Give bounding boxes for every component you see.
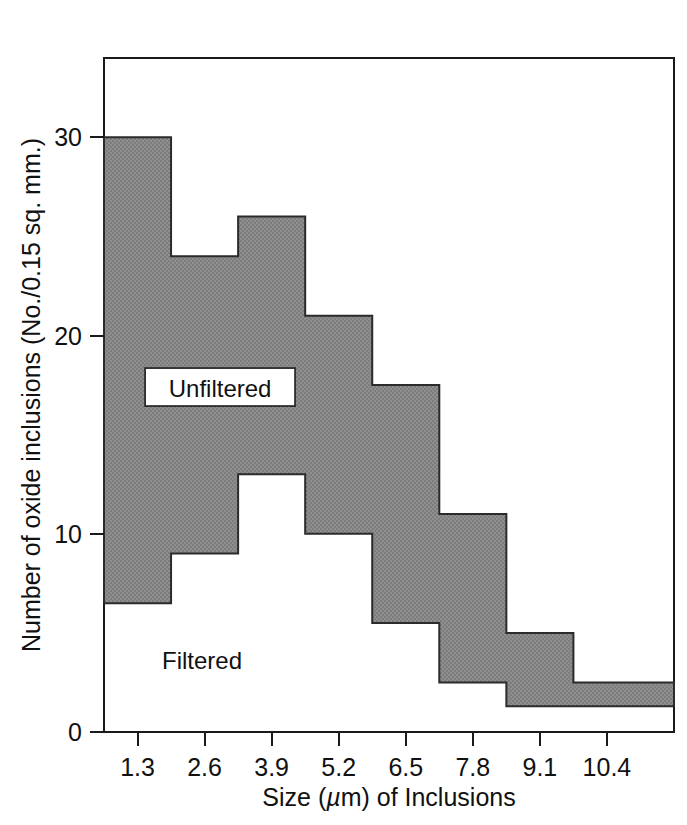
y-axis: 0102030 — [54, 123, 104, 746]
y-tick-label: 10 — [54, 520, 82, 548]
chart-figure: 0102030 1.32.63.95.26.57.89.110.4 Unfilt… — [0, 0, 687, 825]
x-axis-title-after: m) of Inclusions — [341, 783, 516, 811]
y-tick-label: 20 — [54, 322, 82, 350]
y-axis-title: Number of oxide inclusions (No./0.15 sq.… — [17, 138, 45, 652]
x-tick-label: 9.1 — [522, 753, 557, 781]
x-tick-label: 3.9 — [254, 753, 289, 781]
x-axis-title-mu: µ — [325, 783, 340, 811]
x-tick-label: 5.2 — [321, 753, 356, 781]
histogram-plot: 0102030 1.32.63.95.26.57.89.110.4 Unfilt… — [0, 0, 687, 825]
x-tick-label: 1.3 — [120, 753, 155, 781]
data-band-group — [104, 137, 674, 706]
x-tick-label: 2.6 — [187, 753, 222, 781]
annotation-unfiltered-label: Unfiltered — [169, 375, 272, 402]
shaded-band — [104, 137, 674, 706]
y-tick-label: 0 — [68, 718, 82, 746]
annotation-filtered: Filtered — [162, 647, 242, 674]
x-axis-title-before: Size ( — [262, 783, 327, 811]
x-axis: 1.32.63.95.26.57.89.110.4 — [120, 732, 631, 781]
y-tick-label: 30 — [54, 123, 82, 151]
x-tick-label: 6.5 — [388, 753, 423, 781]
x-tick-label: 10.4 — [583, 753, 632, 781]
annotation-filtered-label: Filtered — [162, 647, 242, 674]
x-axis-title: Size (µm) of Inclusions — [262, 783, 515, 811]
x-tick-label: 7.8 — [455, 753, 490, 781]
annotation-unfiltered: Unfiltered — [145, 368, 295, 406]
